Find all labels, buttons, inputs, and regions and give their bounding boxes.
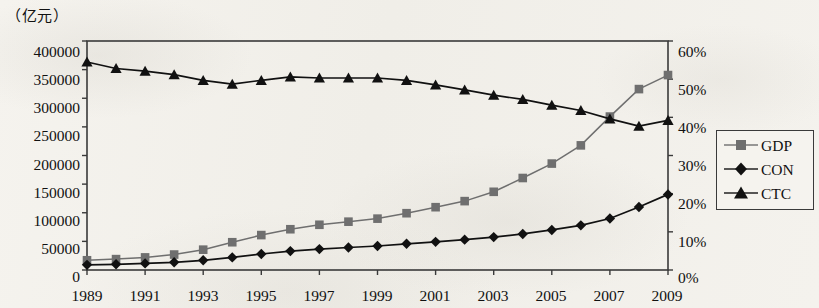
data-point-con: [256, 249, 266, 259]
line-chart: （亿元） 400000 350000 300000 250000 200000 …: [0, 0, 819, 308]
data-point-con: [198, 255, 208, 265]
data-point-gdp: [228, 238, 237, 247]
data-point-ctc: [81, 57, 92, 67]
data-point-gdp: [489, 187, 498, 196]
data-point-con: [489, 232, 499, 242]
plot-area: [0, 0, 819, 308]
data-point-con: [518, 229, 528, 239]
data-point-gdp: [373, 214, 382, 223]
legend-item-gdp: GDP: [721, 135, 813, 157]
data-point-gdp: [577, 141, 586, 150]
data-point-con: [401, 239, 411, 249]
data-point-gdp: [548, 159, 557, 168]
data-point-gdp: [402, 209, 411, 218]
data-point-gdp: [344, 217, 353, 226]
data-point-con: [459, 234, 469, 244]
data-point-con: [314, 244, 324, 254]
data-point-con: [547, 225, 557, 235]
data-point-con: [663, 189, 673, 199]
chart-legend: GDP CON CTC: [716, 130, 814, 210]
data-point-gdp: [286, 225, 295, 234]
legend-label-gdp: GDP: [761, 136, 792, 156]
legend-item-con: CON: [721, 159, 813, 181]
data-point-ctc: [662, 115, 673, 125]
series-line-gdp: [87, 75, 668, 260]
data-point-con: [372, 241, 382, 251]
data-point-con: [227, 252, 237, 262]
data-point-con: [285, 246, 295, 256]
triangle-marker-icon: [723, 183, 759, 203]
data-point-con: [605, 213, 615, 223]
data-point-con: [634, 202, 644, 212]
data-point-gdp: [431, 203, 440, 212]
data-point-gdp: [518, 174, 527, 183]
diamond-marker-icon: [723, 159, 759, 179]
data-point-con: [430, 237, 440, 247]
square-marker-icon: [723, 135, 759, 155]
data-point-gdp: [315, 220, 324, 229]
data-point-gdp: [199, 245, 208, 254]
legend-label-con: CON: [761, 160, 794, 180]
data-point-con: [343, 242, 353, 252]
data-point-gdp: [635, 85, 644, 94]
data-point-con: [576, 220, 586, 230]
data-point-gdp: [257, 231, 266, 240]
legend-label-ctc: CTC: [761, 184, 791, 204]
data-point-gdp: [664, 71, 673, 80]
legend-item-ctc: CTC: [721, 183, 813, 205]
data-point-gdp: [460, 197, 469, 206]
